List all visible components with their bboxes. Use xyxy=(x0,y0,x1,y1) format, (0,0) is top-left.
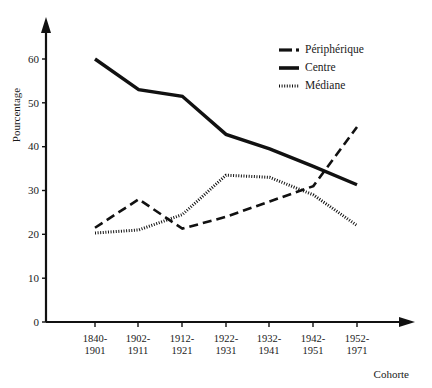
series-line-peripherique xyxy=(95,127,357,229)
x-tick-label-line2: 1951 xyxy=(303,345,324,356)
legend-item-centre[interactable]: Centre xyxy=(279,61,336,73)
x-axis xyxy=(46,317,415,327)
legend-label: Médiane xyxy=(305,79,345,91)
x-tick-labels: 1840- 1901 1902- 1911 1912- 1921 1922- 1… xyxy=(83,333,370,356)
series-line-mediane xyxy=(95,175,357,233)
x-axis-arrow-icon xyxy=(399,317,415,327)
legend-label: Centre xyxy=(305,61,336,73)
y-tick-label: 10 xyxy=(28,272,40,284)
legend-item-peripherique[interactable]: Périphérique xyxy=(279,43,364,56)
x-tick-label-line1: 1932- xyxy=(257,333,282,344)
x-tick-label-line2: 1921 xyxy=(172,345,193,356)
legend-label: Périphérique xyxy=(305,43,364,56)
y-tick-label: 50 xyxy=(28,97,40,109)
y-tick-label: 40 xyxy=(28,140,40,152)
x-tick-label-line1: 1942- xyxy=(301,333,326,344)
y-tick-labels: 0 10 20 30 40 50 60 xyxy=(28,53,40,328)
legend: Périphérique Centre Médiane xyxy=(279,43,364,91)
y-axis-label: Pourcentage xyxy=(10,88,22,142)
y-axis xyxy=(41,17,51,322)
y-tick-label: 20 xyxy=(28,228,40,240)
x-tick-label-line2: 1931 xyxy=(216,345,237,356)
y-tick-label: 60 xyxy=(28,53,40,65)
x-tick-label-line1: 1902- xyxy=(126,333,151,344)
x-tick-label-line2: 1901 xyxy=(85,345,106,356)
y-tick-label: 30 xyxy=(28,184,40,196)
x-tick-label-line1: 1922- xyxy=(214,333,239,344)
line-chart-canvas: 0 10 20 30 40 50 60 Pourcentage 1840- 19… xyxy=(0,0,432,388)
x-tick-label-line2: 1911 xyxy=(128,345,149,356)
chart-figure: 0 10 20 30 40 50 60 Pourcentage 1840- 19… xyxy=(0,0,432,388)
x-tick-label-line2: 1971 xyxy=(347,345,368,356)
y-axis-arrow-icon xyxy=(41,17,51,33)
x-tick-label-line1: 1952- xyxy=(345,333,370,344)
x-axis-label: Cohorte xyxy=(374,368,410,380)
x-tick-label-line1: 1912- xyxy=(170,333,195,344)
y-tick-label: 0 xyxy=(34,316,40,328)
x-tick-label-line2: 1941 xyxy=(259,345,280,356)
x-tick-label-line1: 1840- xyxy=(83,333,108,344)
legend-item-mediane[interactable]: Médiane xyxy=(279,79,345,91)
